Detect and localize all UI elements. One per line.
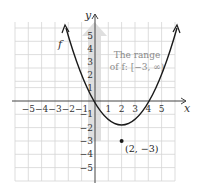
- vertex-point: [120, 139, 124, 143]
- function-label: f: [57, 38, 64, 51]
- svg-text:−5: −5: [80, 163, 94, 173]
- svg-text:1: 1: [87, 83, 93, 93]
- svg-text:−3: −3: [48, 104, 62, 114]
- range-annotation-line1: The range: [114, 50, 161, 60]
- range-annotation-line2: of f: [−3, ∞): [110, 62, 164, 72]
- svg-text:5: 5: [87, 31, 93, 41]
- svg-text:−2: −2: [80, 123, 93, 133]
- svg-text:−2: −2: [62, 104, 75, 114]
- svg-text:3: 3: [132, 104, 138, 114]
- svg-text:−5: −5: [22, 104, 36, 114]
- svg-text:2: 2: [87, 70, 93, 80]
- svg-text:−3: −3: [80, 136, 94, 146]
- svg-text:3: 3: [87, 57, 93, 67]
- svg-text:5: 5: [159, 104, 165, 114]
- vertex-label: (2, −3): [125, 143, 159, 154]
- svg-text:4: 4: [87, 44, 93, 54]
- svg-text:1: 1: [105, 104, 111, 114]
- svg-text:−1: −1: [80, 109, 93, 119]
- svg-text:2: 2: [119, 104, 125, 114]
- svg-text:−4: −4: [80, 149, 94, 159]
- graph: x y −5 −4 −3 −2 −1 1 2 3 4 5 5 4 3 2 1 −…: [0, 0, 201, 187]
- x-axis-label: x: [184, 102, 191, 115]
- svg-text:−4: −4: [35, 104, 49, 114]
- y-axis-label: y: [84, 9, 92, 22]
